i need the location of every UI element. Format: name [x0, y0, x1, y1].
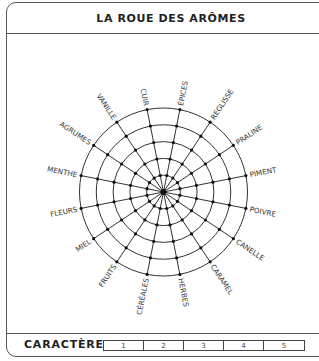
rating-point[interactable]: [120, 162, 123, 165]
rating-point[interactable]: [152, 240, 155, 243]
scale-option-4[interactable]: 4: [224, 341, 264, 350]
rating-point[interactable]: [125, 135, 128, 138]
rating-point[interactable]: [204, 162, 207, 165]
rating-point[interactable]: [244, 207, 247, 210]
rating-point[interactable]: [115, 260, 118, 263]
rating-point[interactable]: [195, 197, 198, 200]
rating-point[interactable]: [218, 228, 221, 231]
rating-point[interactable]: [148, 181, 151, 184]
aroma-label: FRUITS: [97, 262, 119, 289]
rating-point[interactable]: [134, 232, 137, 235]
rating-point[interactable]: [112, 200, 115, 203]
rating-point[interactable]: [190, 148, 193, 151]
rating-point[interactable]: [181, 218, 184, 221]
rating-point[interactable]: [92, 237, 95, 240]
rating-point[interactable]: [159, 207, 162, 210]
rating-point[interactable]: [120, 218, 123, 221]
rating-point[interactable]: [155, 157, 158, 160]
rating-point[interactable]: [143, 218, 146, 221]
rating-point[interactable]: [211, 200, 214, 203]
rating-point[interactable]: [149, 124, 152, 127]
scale-option-3[interactable]: 3: [184, 341, 224, 350]
scale-option-1[interactable]: 1: [104, 341, 144, 350]
scale-option-2[interactable]: 2: [144, 341, 184, 350]
aroma-label: PIMENT: [249, 165, 278, 179]
rating-point[interactable]: [125, 246, 128, 249]
rating-point[interactable]: [175, 124, 178, 127]
rating-point[interactable]: [232, 237, 235, 240]
rating-point[interactable]: [129, 184, 132, 187]
rating-point[interactable]: [96, 204, 99, 207]
rating-point[interactable]: [171, 204, 174, 207]
rating-point[interactable]: [153, 204, 156, 207]
rating-point[interactable]: [195, 184, 198, 187]
aroma-label: CÉRÉALES: [135, 277, 151, 316]
rating-point[interactable]: [190, 232, 193, 235]
rating-point[interactable]: [145, 187, 148, 190]
rating-point[interactable]: [152, 141, 155, 144]
scale-option-5[interactable]: 5: [264, 341, 304, 350]
aroma-label: CUIR: [139, 88, 151, 107]
rating-point[interactable]: [145, 194, 148, 197]
rating-point[interactable]: [244, 174, 247, 177]
rating-point[interactable]: [232, 144, 235, 147]
rating-point[interactable]: [209, 260, 212, 263]
rating-point[interactable]: [176, 181, 179, 184]
rating-point[interactable]: [134, 172, 137, 175]
rating-point[interactable]: [153, 176, 156, 179]
rating-point[interactable]: [134, 148, 137, 151]
rating-point[interactable]: [80, 207, 83, 210]
rating-point[interactable]: [155, 223, 158, 226]
rating-point[interactable]: [106, 228, 109, 231]
footer-divider: [6, 333, 319, 334]
rating-point[interactable]: [134, 209, 137, 212]
aroma-label: VANILLE: [95, 92, 119, 122]
rating-point[interactable]: [168, 223, 171, 226]
aroma-label: HERBES: [176, 277, 191, 308]
rating-point[interactable]: [178, 194, 181, 197]
rating-point[interactable]: [178, 108, 181, 111]
rating-point[interactable]: [148, 200, 151, 203]
rating-point[interactable]: [199, 135, 202, 138]
rating-point[interactable]: [172, 141, 175, 144]
aroma-label: CANELLE: [234, 237, 266, 263]
rating-point[interactable]: [209, 121, 212, 124]
aroma-label: AGRUMES: [58, 119, 93, 147]
rating-point[interactable]: [172, 240, 175, 243]
rating-point[interactable]: [218, 153, 221, 156]
rating-point[interactable]: [80, 174, 83, 177]
rating-point[interactable]: [228, 177, 231, 180]
rating-point[interactable]: [211, 181, 214, 184]
aroma-label: MENTHE: [46, 164, 78, 179]
rating-point[interactable]: [228, 204, 231, 207]
rating-point[interactable]: [175, 256, 178, 259]
rating-point[interactable]: [204, 218, 207, 221]
rating-point[interactable]: [143, 162, 146, 165]
rating-point[interactable]: [112, 181, 115, 184]
aroma-label: FLEURS: [49, 205, 78, 219]
rating-point[interactable]: [92, 144, 95, 147]
aroma-label: MIEL: [74, 237, 93, 254]
rating-point[interactable]: [146, 108, 149, 111]
rating-point[interactable]: [181, 162, 184, 165]
rating-point[interactable]: [146, 273, 149, 276]
rating-point[interactable]: [168, 157, 171, 160]
character-label: CARACTÈRE: [24, 338, 104, 351]
rating-point[interactable]: [190, 172, 193, 175]
rating-point[interactable]: [176, 200, 179, 203]
rating-point[interactable]: [115, 121, 118, 124]
rating-point[interactable]: [199, 246, 202, 249]
rating-point[interactable]: [171, 176, 174, 179]
aroma-wheel: ÉPICESREGLISSEPRALINEPIMENTPOIVRECANELLE…: [0, 0, 319, 361]
rating-point[interactable]: [96, 177, 99, 180]
rating-point[interactable]: [165, 207, 168, 210]
rating-point[interactable]: [178, 273, 181, 276]
rating-point[interactable]: [190, 209, 193, 212]
rating-point[interactable]: [165, 174, 168, 177]
rating-point[interactable]: [129, 197, 132, 200]
rating-point[interactable]: [106, 153, 109, 156]
rating-point[interactable]: [159, 174, 162, 177]
aroma-label: CARAMEL: [209, 263, 236, 297]
rating-point[interactable]: [149, 256, 152, 259]
rating-point[interactable]: [178, 187, 181, 190]
